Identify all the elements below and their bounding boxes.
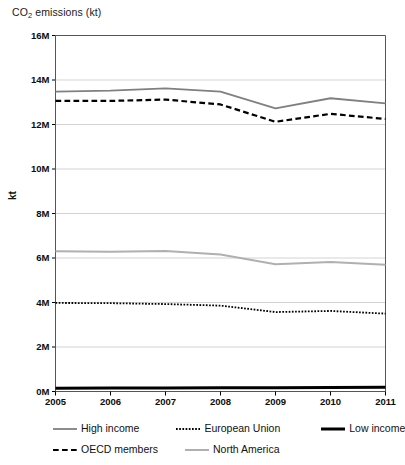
x-axis-tick-label: 2006 (100, 396, 121, 407)
legend-item-low-income[interactable]: Low income (320, 423, 405, 434)
legend-item-north-america[interactable]: North America (184, 444, 280, 455)
y-axis-tick-label: 6M (36, 252, 49, 263)
legend-item-label: High income (81, 423, 139, 434)
legend-item-label: North America (213, 444, 280, 455)
legend-item-high-income[interactable]: High income (52, 423, 139, 434)
x-axis-tick-label: 2009 (265, 396, 286, 407)
y-axis-tick-label: 10M (31, 163, 50, 174)
legend-swatch-icon (52, 424, 78, 434)
legend-item-label: Low income (349, 423, 405, 434)
y-axis-tick-label: 4M (36, 297, 49, 308)
legend-swatch-icon (52, 445, 78, 455)
legend-swatch-icon (184, 445, 210, 455)
plot-area: 0M2M4M6M8M10M12M14M16M200520062007200820… (0, 0, 402, 410)
y-axis-tick-label: 8M (36, 208, 49, 219)
y-axis-tick-label: 16M (31, 30, 50, 41)
legend-row: OECD membersNorth America (0, 439, 402, 460)
x-axis-tick-label: 2008 (210, 396, 231, 407)
x-axis-tick-label: 2005 (45, 396, 67, 407)
legend-item-oecd-members[interactable]: OECD members (52, 444, 158, 455)
x-axis-tick-label: 2011 (375, 396, 396, 407)
legend-swatch-icon (175, 424, 201, 434)
y-axis-tick-label: 12M (31, 119, 50, 130)
series-line-low-income (56, 387, 386, 388)
chart-legend: High incomeEuropean UnionLow incomeOECD … (0, 418, 402, 460)
series-line-oecd-members (56, 100, 386, 122)
legend-item-european-union[interactable]: European Union (175, 423, 280, 434)
legend-swatch-icon (320, 424, 346, 434)
y-axis-tick-label: 2M (36, 341, 49, 352)
series-line-european-union (56, 303, 386, 314)
legend-row: High incomeEuropean UnionLow income (0, 418, 402, 439)
legend-item-label: OECD members (81, 444, 158, 455)
x-axis-tick-label: 2007 (155, 396, 176, 407)
legend-item-label: European Union (204, 423, 280, 434)
y-axis-tick-label: 14M (31, 74, 50, 85)
x-axis-tick-label: 2010 (320, 396, 341, 407)
